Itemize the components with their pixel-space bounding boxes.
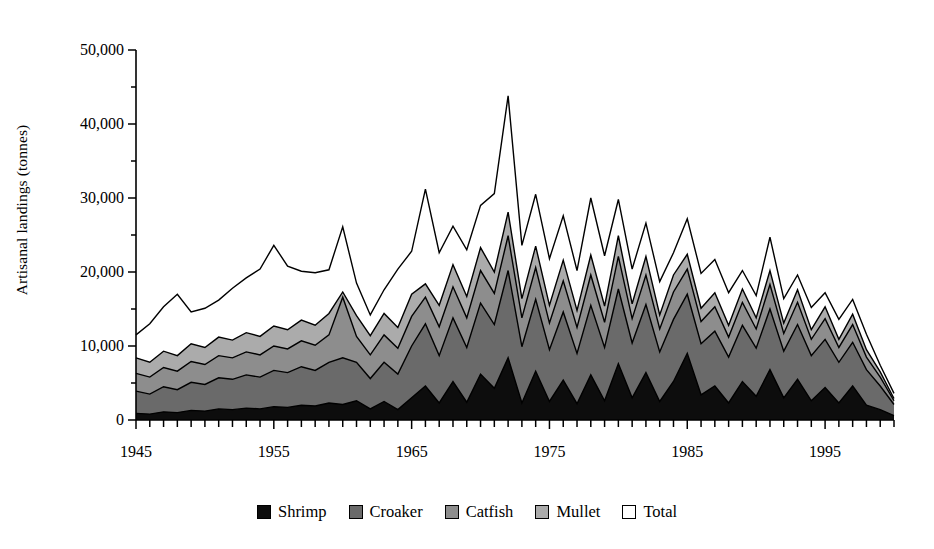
plot-area — [0, 0, 934, 549]
legend-item-catfish[interactable]: Catfish — [445, 504, 514, 520]
legend-item-total[interactable]: Total — [622, 504, 677, 520]
y-tick-label: 40,000 — [34, 116, 124, 132]
x-tick-label: 1965 — [377, 444, 447, 460]
legend-label: Catfish — [466, 504, 514, 520]
y-tick-label: 20,000 — [34, 264, 124, 280]
chart-legend: ShrimpCroakerCatfishMulletTotal — [0, 498, 934, 526]
legend-swatch-icon — [349, 505, 363, 519]
legend-item-mullet[interactable]: Mullet — [535, 504, 600, 520]
legend-swatch-icon — [622, 505, 636, 519]
x-tick-label: 1995 — [790, 444, 860, 460]
x-tick-label: 1945 — [101, 444, 171, 460]
chart-figure: Artisanal landings (tonnes) 010,00020,00… — [0, 0, 934, 549]
legend-label: Croaker — [370, 504, 423, 520]
legend-swatch-icon — [445, 505, 459, 519]
legend-label: Total — [643, 504, 677, 520]
y-tick-label: 50,000 — [34, 42, 124, 58]
y-tick-label: 30,000 — [34, 190, 124, 206]
x-tick-label: 1955 — [239, 444, 309, 460]
legend-swatch-icon — [257, 505, 271, 519]
legend-swatch-icon — [535, 505, 549, 519]
legend-item-croaker[interactable]: Croaker — [349, 504, 423, 520]
legend-item-shrimp[interactable]: Shrimp — [257, 504, 327, 520]
x-tick-label: 1985 — [652, 444, 722, 460]
y-tick-label: 0 — [34, 412, 124, 428]
y-tick-label: 10,000 — [34, 338, 124, 354]
legend-label: Shrimp — [278, 504, 327, 520]
legend-label: Mullet — [556, 504, 600, 520]
x-tick-label: 1975 — [514, 444, 584, 460]
